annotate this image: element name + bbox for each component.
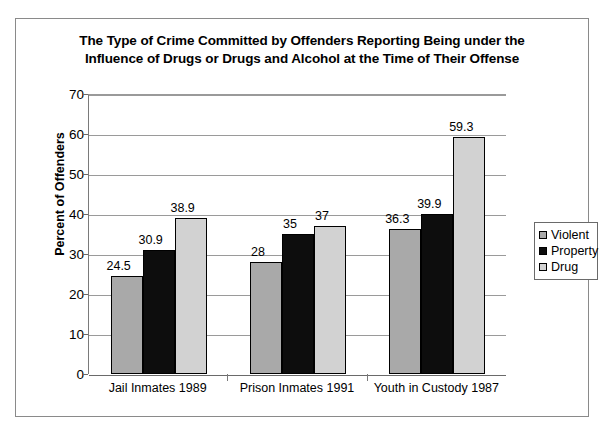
x-axis-tick-mark [367, 374, 368, 381]
x-axis-tick-labels: Jail Inmates 1989Prison Inmates 1991Yout… [88, 381, 506, 403]
chart-legend: ViolentPropertyDrug [534, 222, 598, 280]
chart-title-line-2: Influence of Drugs or Drugs and Alcohol … [16, 50, 588, 68]
x-axis-tick-label: Prison Inmates 1991 [217, 381, 377, 395]
bar-property-3 [421, 214, 453, 374]
chart-title-line-1: The Type of Crime Committed by Offenders… [16, 32, 588, 50]
bar-drug-2 [314, 226, 346, 374]
gridline [89, 175, 506, 176]
y-axis-tick-label: 70 [56, 87, 84, 102]
legend-label: Violent [551, 228, 589, 242]
bar-value-label: 24.5 [97, 259, 141, 273]
chart-screenshot: The Type of Crime Committed by Offenders… [0, 0, 605, 432]
legend-swatch-icon [539, 231, 547, 239]
y-axis-tick-label: 20 [56, 287, 84, 302]
bar-drug-1 [175, 218, 207, 374]
bar-value-label: 38.9 [161, 201, 205, 215]
bar-value-label: 28 [236, 245, 280, 259]
y-axis-tick-label: 30 [56, 247, 84, 262]
gridline [89, 135, 506, 136]
legend-item-drug[interactable]: Drug [539, 259, 593, 275]
y-axis-tick-label: 60 [56, 127, 84, 142]
legend-item-property[interactable]: Property [539, 243, 593, 259]
legend-swatch-icon [539, 247, 547, 255]
chart-title: The Type of Crime Committed by Offenders… [16, 32, 588, 68]
legend-item-violent[interactable]: Violent [539, 227, 593, 243]
plot-area: 24.530.938.928353736.339.959.3 [88, 94, 506, 374]
bar-value-label: 37 [300, 209, 344, 223]
y-axis-tick-label: 10 [56, 327, 84, 342]
y-axis-tick-mark [83, 374, 88, 375]
x-axis-tick-label: Youth in Custody 1987 [356, 381, 516, 395]
bar-violent-2 [250, 262, 282, 374]
y-axis-tick-label: 0 [56, 367, 84, 382]
y-axis-tick-labels: 010203040506070 [52, 94, 84, 374]
gridline [89, 375, 506, 376]
legend-label: Property [551, 244, 598, 258]
bar-drug-3 [453, 137, 485, 374]
chart-frame: The Type of Crime Committed by Offenders… [15, 18, 589, 417]
bar-value-label: 59.3 [439, 120, 483, 134]
bar-violent-3 [389, 229, 421, 374]
legend-swatch-icon [539, 263, 547, 271]
bar-property-2 [282, 234, 314, 374]
x-axis-tick-label: Jail Inmates 1989 [78, 381, 238, 395]
bar-value-label: 39.9 [407, 197, 451, 211]
gridline [89, 95, 506, 96]
y-axis-tick-label: 50 [56, 167, 84, 182]
bar-value-label: 36.3 [375, 212, 419, 226]
x-axis-tick-mark [227, 374, 228, 381]
bar-property-1 [143, 250, 175, 374]
bar-value-label: 30.9 [129, 233, 173, 247]
bar-violent-1 [111, 276, 143, 374]
y-axis-tick-label: 40 [56, 207, 84, 222]
legend-label: Drug [551, 260, 578, 274]
